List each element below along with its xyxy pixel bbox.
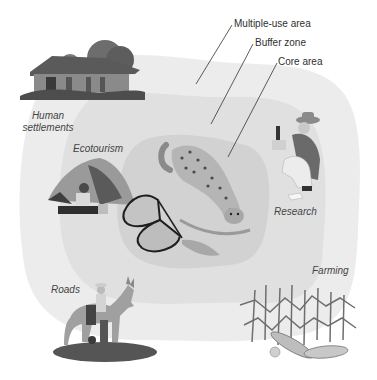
- human-settlements-label-line2: settlements: [18, 122, 78, 134]
- human-settlements-label-line1: Human: [18, 110, 78, 122]
- thatched-house-icon: [20, 40, 145, 100]
- farming-label: Farming: [312, 265, 349, 277]
- ecotourism-label: Ecotourism: [73, 143, 123, 155]
- roads-label: Roads: [51, 284, 80, 296]
- research-label: Research: [274, 206, 317, 218]
- biosphere-reserve-diagram: Multiple-use area Buffer zone Core area …: [0, 0, 377, 380]
- corn-cobs-icon: [268, 328, 348, 362]
- buffer-zone-label: Buffer zone: [255, 37, 306, 49]
- human-settlements-label: Human settlements: [18, 110, 78, 134]
- multiple-use-area-label: Multiple-use area: [234, 18, 311, 30]
- core-area-label: Core area: [278, 56, 322, 68]
